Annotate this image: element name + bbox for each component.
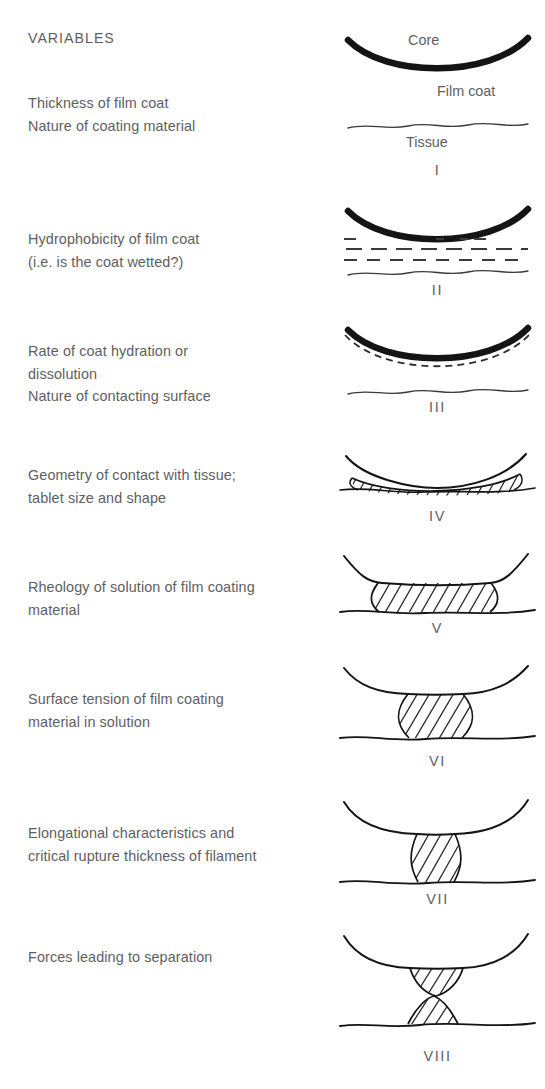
tissue-line-icon	[340, 736, 535, 740]
film-coat-label: Film coat	[437, 83, 495, 99]
stage-8-variables: Forces leading to separation	[28, 946, 328, 969]
stage-1-variables: Thickness of film coat Nature of coating…	[28, 92, 328, 137]
hatch-fill-upper-icon	[382, 946, 482, 1010]
stage-8-figure	[330, 930, 545, 1050]
tissue-line-icon	[348, 123, 528, 128]
tissue-line-icon	[340, 610, 535, 613]
stage-8-numeral: VIII	[330, 1048, 545, 1064]
tissue-line-icon	[340, 880, 535, 884]
tissue-label: Tissue	[406, 134, 448, 150]
stage-2-numeral: II	[330, 282, 545, 298]
stage-3-numeral: III	[330, 399, 545, 415]
stage-5-numeral: V	[330, 620, 545, 636]
core-label: Core	[408, 32, 439, 48]
stage-6-variables: Surface tension of film coating material…	[28, 688, 328, 733]
stage-7-variables: Elongational characteristics and critica…	[28, 822, 328, 867]
tablet-surface-icon	[344, 934, 528, 969]
stage-7-figure	[330, 796, 545, 901]
core-curve-icon	[348, 328, 528, 358]
diagram-sheet: VARIABLES Thickness of film coat Nature …	[0, 0, 545, 1089]
stage-2-variables: Hydrophobicity of film coat (i.e. is the…	[28, 228, 328, 273]
tissue-line-icon	[348, 270, 528, 275]
stage-3-variables: Rate of coat hydration or dissolution Na…	[28, 340, 328, 408]
stage-4-numeral: IV	[330, 508, 545, 524]
stage-1-numeral: I	[330, 162, 545, 178]
right-meniscus-icon	[490, 583, 498, 612]
hatch-fill-icon	[370, 676, 500, 754]
tissue-line-icon	[340, 1023, 535, 1026]
left-meniscus-icon	[411, 834, 418, 882]
stage-5-variables: Rheology of solution of film coating mat…	[28, 576, 328, 621]
right-meniscus-icon	[462, 694, 473, 738]
tablet-surface-icon	[344, 666, 528, 695]
hatch-fill-icon	[338, 460, 545, 512]
right-meniscus-icon	[454, 834, 461, 882]
core-curve-icon	[348, 209, 528, 239]
tissue-line-icon	[348, 389, 528, 394]
stage-6-figure	[330, 662, 545, 762]
stage-7-numeral: VII	[330, 891, 545, 907]
hatch-fill-icon	[382, 818, 486, 896]
page-title: VARIABLES	[28, 30, 115, 46]
tablet-surface-icon	[344, 800, 528, 835]
left-meniscus-icon	[371, 583, 379, 612]
stage-6-numeral: VI	[330, 753, 545, 769]
stage-4-variables: Geometry of contact with tissue; tablet …	[28, 464, 328, 509]
tablet-surface-icon	[344, 554, 528, 585]
